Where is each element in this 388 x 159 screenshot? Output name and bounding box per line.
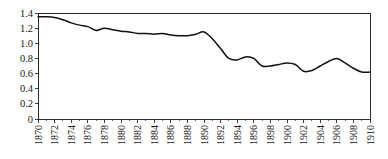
x-tick-label: 1880 bbox=[116, 125, 127, 145]
chart-ticks bbox=[35, 13, 370, 123]
x-axis-tick-labels: 1870187218741876187818801882188418861888… bbox=[33, 125, 376, 145]
x-tick-label: 1902 bbox=[298, 125, 309, 145]
x-tick-label: 1900 bbox=[282, 125, 293, 145]
x-tick-label: 1878 bbox=[99, 125, 110, 145]
x-tick-label: 1910 bbox=[365, 125, 376, 145]
x-tick-label: 1876 bbox=[82, 125, 93, 145]
x-tick-label: 1886 bbox=[165, 125, 176, 145]
y-tick-label: 1.2 bbox=[20, 23, 33, 34]
x-tick-label: 1892 bbox=[215, 125, 226, 145]
line-chart: 00.20.40.60.81.01.21.4 18701872187418761… bbox=[0, 0, 388, 159]
y-tick-label: 0.6 bbox=[20, 68, 33, 79]
x-tick-label: 1904 bbox=[315, 125, 326, 145]
x-tick-label: 1898 bbox=[265, 125, 276, 145]
y-tick-label: 0 bbox=[28, 114, 33, 125]
x-tick-label: 1888 bbox=[182, 125, 193, 145]
y-axis-tick-labels: 00.20.40.60.81.01.21.4 bbox=[20, 8, 34, 125]
y-tick-label: 0.8 bbox=[20, 53, 33, 64]
x-tick-label: 1896 bbox=[248, 125, 259, 145]
x-tick-label: 1882 bbox=[132, 125, 143, 145]
data-line bbox=[38, 17, 370, 73]
x-tick-label: 1884 bbox=[149, 125, 160, 145]
y-tick-label: 0.4 bbox=[20, 83, 34, 94]
y-tick-label: 1.4 bbox=[20, 8, 34, 19]
chart-figure: 00.20.40.60.81.01.21.4 18701872187418761… bbox=[0, 0, 388, 159]
data-series bbox=[38, 17, 370, 73]
x-tick-label: 1890 bbox=[199, 125, 210, 145]
y-tick-label: 1.0 bbox=[20, 38, 33, 49]
x-tick-label: 1906 bbox=[331, 125, 342, 145]
y-tick-label: 0.2 bbox=[20, 98, 33, 109]
x-tick-label: 1908 bbox=[348, 125, 359, 145]
x-tick-label: 1894 bbox=[232, 125, 243, 145]
x-tick-label: 1870 bbox=[33, 125, 44, 145]
x-tick-label: 1872 bbox=[49, 125, 60, 145]
x-tick-label: 1874 bbox=[66, 125, 77, 145]
